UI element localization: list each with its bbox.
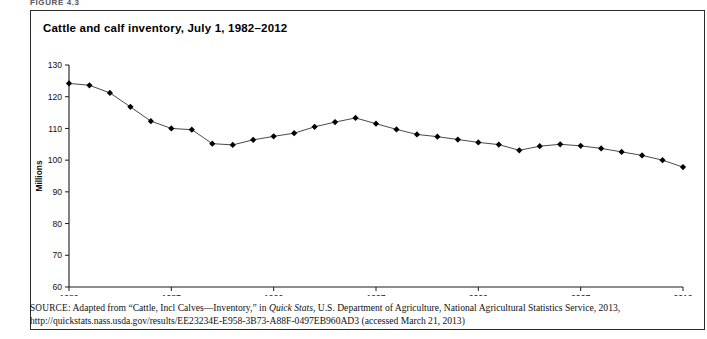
y-tick-label: 60 xyxy=(52,282,62,292)
data-point-marker xyxy=(86,82,92,88)
data-point-marker xyxy=(271,133,277,139)
line-chart: 6070809010011012013019821987199219972002… xyxy=(31,11,706,296)
data-point-marker xyxy=(66,80,72,86)
data-point-marker xyxy=(352,115,358,121)
source-italic-title: Quick Stats xyxy=(269,302,313,313)
y-tick-label: 100 xyxy=(48,155,63,165)
x-tick-label: 1982 xyxy=(59,293,78,296)
x-tick-label: 1987 xyxy=(162,293,181,296)
data-point-marker xyxy=(598,145,604,151)
x-tick-label: 2007 xyxy=(571,293,590,296)
source-prefix: SOURCE xyxy=(30,303,68,313)
data-point-marker xyxy=(189,127,195,133)
y-tick-label: 70 xyxy=(52,250,62,260)
data-point-marker xyxy=(516,147,522,153)
y-axis-title: Millions xyxy=(34,160,44,192)
data-point-marker xyxy=(659,157,665,163)
data-point-marker xyxy=(107,90,113,96)
data-point-marker xyxy=(434,134,440,140)
data-point-marker xyxy=(250,137,256,143)
data-point-marker xyxy=(619,149,625,155)
chart-plot-area: 6070809010011012013019821987199219972002… xyxy=(31,11,706,296)
data-point-marker xyxy=(639,152,645,158)
y-tick-label: 80 xyxy=(52,219,62,229)
data-point-marker xyxy=(332,119,338,125)
y-tick-label: 90 xyxy=(52,187,62,197)
data-point-marker xyxy=(557,141,563,147)
data-point-marker xyxy=(414,131,420,137)
x-tick-label: 1992 xyxy=(264,293,283,296)
data-point-marker xyxy=(680,164,686,170)
figure-box: Cattle and calf inventory, July 1, 1982–… xyxy=(30,10,705,330)
x-tick-label: 2012 xyxy=(673,293,692,296)
data-point-marker xyxy=(393,126,399,132)
source-text-a: Adapted from “Cattle, Incl Calves—Invent… xyxy=(72,302,269,313)
y-tick-label: 130 xyxy=(48,60,63,70)
y-tick-label: 110 xyxy=(48,124,62,134)
source-text-b: , U.S. Department of Agriculture, Nation… xyxy=(313,302,620,313)
data-point-marker xyxy=(496,142,502,148)
data-point-marker xyxy=(312,124,318,130)
data-point-marker xyxy=(455,136,461,142)
x-tick-label: 1997 xyxy=(366,293,385,296)
data-point-marker xyxy=(291,130,297,136)
data-point-marker xyxy=(230,142,236,148)
data-point-marker xyxy=(127,104,133,110)
source-line-2: http://quickstats.nass.usda.gov/results/… xyxy=(30,315,702,327)
source-note: SOURCE: Adapted from “Cattle, Incl Calve… xyxy=(30,302,702,326)
data-point-marker xyxy=(168,125,174,131)
data-point-marker xyxy=(578,143,584,149)
data-point-marker xyxy=(537,143,543,149)
source-line-1: SOURCE: Adapted from “Cattle, Incl Calve… xyxy=(30,302,702,315)
data-point-marker xyxy=(209,141,215,147)
data-point-marker xyxy=(373,121,379,127)
figure-label: FIGURE 4.3 xyxy=(30,0,80,7)
data-point-marker xyxy=(475,139,481,145)
x-tick-label: 2002 xyxy=(469,293,488,296)
data-point-marker xyxy=(148,118,154,124)
y-tick-label: 120 xyxy=(48,92,63,102)
